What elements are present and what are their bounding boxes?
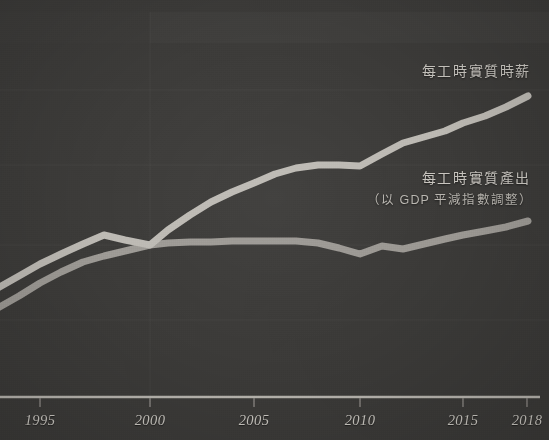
x-tick-label-1995: 1995 [25, 412, 56, 429]
x-tick-label-2005: 2005 [239, 412, 270, 429]
series-label-wage: 每工時實質時薪 [422, 60, 531, 80]
x-tick-label-2010: 2010 [345, 412, 376, 429]
x-axis-ticks [40, 398, 527, 407]
x-tick-label-2015: 2015 [448, 412, 479, 429]
x-tick-label-2018: 2018 [512, 412, 543, 429]
chart-container: 1995 2000 2005 2010 2015 2018 每工時實質時薪 每工… [0, 0, 549, 440]
series-line-output [0, 221, 528, 310]
series-label-output-sub: （以 GDP 平減指數調整） [367, 189, 533, 208]
x-tick-label-2000: 2000 [135, 412, 166, 429]
series-label-output: 每工時實質產出 [422, 167, 531, 187]
